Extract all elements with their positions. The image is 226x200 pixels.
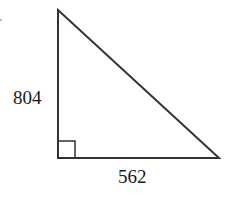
stray-mark bbox=[0, 19, 2, 21]
right-angle-marker bbox=[58, 141, 75, 158]
vertical-side-label: 804 bbox=[13, 88, 42, 107]
horizontal-side-label: 562 bbox=[118, 167, 147, 186]
right-triangle bbox=[58, 10, 219, 158]
